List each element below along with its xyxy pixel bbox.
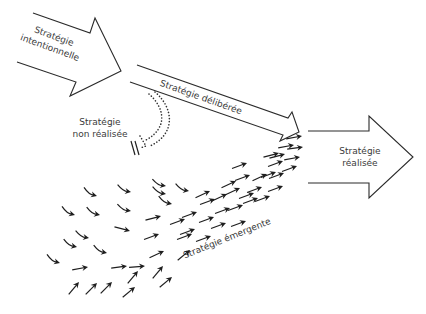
emergent-arrow-shaft: [47, 254, 57, 262]
emergent-arrow: [129, 264, 145, 270]
emergent-arrow: [239, 192, 254, 198]
emergent-arrow-shaft: [69, 284, 77, 294]
emergent-arrow: [213, 194, 228, 201]
strategy-diagram: Stratégie intentionnelle Stratégie délib…: [0, 0, 426, 314]
emergent-arrow: [211, 222, 226, 228]
emergent-arrow-shaft: [226, 189, 238, 195]
emergent-arrow-shaft: [239, 194, 251, 199]
emergent-arrow: [115, 227, 131, 233]
emergent-arrow: [111, 264, 127, 270]
emergent-arrow-shaft: [278, 146, 291, 148]
emergent-arrow: [196, 191, 211, 198]
emergent-arrow: [228, 204, 243, 210]
emergent-arrow-shaft: [269, 174, 281, 179]
emergent-arrow-shaft: [62, 206, 72, 214]
emergent-arrow-shaft: [268, 162, 280, 167]
emergent-arrow-shaft: [153, 268, 161, 278]
emergent-arrow: [284, 155, 300, 161]
emergent-arrow-shaft: [76, 231, 86, 238]
emergent-arrow-shaft: [176, 184, 186, 191]
emergent-arrow-shaft: [84, 187, 94, 195]
emergent-arrow: [159, 196, 172, 206]
emergent-arrow: [268, 185, 283, 191]
emergent-arrow: [200, 198, 215, 204]
emergent-arrow-shaft: [128, 273, 136, 283]
emergent-arrow-shaft: [177, 235, 189, 240]
emergent-arrow: [128, 271, 138, 283]
deliberate-strategy-label: Stratégie délibérée: [159, 78, 244, 116]
emergent-arrow: [117, 204, 131, 213]
emergent-arrow: [153, 187, 166, 196]
emergent-arrow: [69, 282, 79, 294]
emergent-arrow-shaft: [200, 200, 212, 205]
emergent-arrow: [182, 211, 197, 217]
emergent-arrow: [94, 245, 107, 255]
emergent-arrow: [76, 231, 89, 240]
emergent-arrow: [72, 265, 88, 271]
emergent-arrows-group: [47, 134, 303, 297]
emergent-arrow: [199, 216, 214, 222]
emergent-arrow: [84, 187, 97, 197]
emergent-arrow-shaft: [64, 239, 74, 246]
emergent-arrow-shaft: [152, 179, 163, 186]
emergent-arrow: [62, 206, 75, 216]
emergent-arrow: [253, 174, 268, 181]
double-slash-icon: [131, 141, 139, 155]
emergent-arrow: [64, 239, 77, 249]
emergent-arrow-shaft: [231, 222, 243, 227]
emergent-arrow-shaft: [213, 195, 225, 201]
emergent-arrow: [86, 283, 97, 294]
emergent-arrow-shaft: [115, 227, 128, 230]
emergent-arrow-shaft: [111, 266, 124, 268]
emergent-arrow-shaft: [87, 207, 97, 214]
emergent-arrow-shaft: [182, 213, 194, 218]
emergent-arrow-shaft: [86, 285, 95, 294]
emergent-arrow-shaft: [150, 252, 162, 257]
emergent-arrow: [243, 197, 258, 203]
emergent-arrow-shaft: [118, 185, 128, 192]
emergent-arrow: [222, 181, 237, 188]
emergent-arrow-shaft: [253, 175, 265, 181]
emergent-arrow-shaft: [117, 204, 128, 211]
emergent-arrow-shaft: [153, 187, 163, 194]
emergent-arrow: [152, 179, 166, 188]
emergent-arrow-shaft: [235, 176, 247, 181]
emergent-arrow: [177, 233, 192, 239]
emergent-arrow: [170, 218, 185, 224]
emergent-arrow-shaft: [255, 197, 267, 202]
emergent-arrow-shaft: [222, 182, 234, 188]
emergent-arrow: [247, 186, 262, 192]
emergent-arrow-shaft: [215, 209, 227, 214]
emergent-arrow-shaft: [144, 235, 156, 240]
emergent-arrow-shaft: [72, 268, 85, 270]
emergent-arrow-shaft: [94, 245, 104, 252]
emergent-arrow-shaft: [160, 279, 170, 287]
emergent-arrow-shaft: [199, 218, 211, 223]
emergent-arrow-shaft: [284, 158, 297, 160]
emergent-arrow: [282, 165, 297, 171]
emergent-arrow-shaft: [196, 192, 208, 198]
unrealized-label-line2: non réalisée: [72, 129, 128, 139]
realized-label-line2: réalisée: [342, 158, 378, 168]
emergent-arrow-shaft: [268, 187, 280, 192]
emergent-arrow-shaft: [101, 284, 110, 293]
realized-label-line1: Stratégie: [339, 146, 381, 156]
emergent-arrow-shaft: [282, 167, 294, 172]
emergent-arrow: [226, 188, 241, 195]
realized-strategy-arrow: [308, 116, 413, 198]
emergent-arrow: [87, 207, 100, 217]
emergent-arrow-shaft: [228, 206, 240, 211]
emergent-arrow: [101, 282, 112, 293]
emergent-arrow: [144, 233, 159, 239]
emergent-arrow: [268, 160, 283, 166]
emergent-arrow: [146, 215, 162, 221]
emergent-arrow-shaft: [159, 196, 169, 203]
emergent-arrow: [160, 277, 172, 287]
emergent-arrow: [176, 184, 189, 193]
emergent-arrow: [47, 254, 60, 264]
unrealized-dotted-curve-icon: [140, 92, 169, 148]
emergent-arrow-shaft: [211, 224, 223, 229]
emergent-arrow-shaft: [247, 188, 259, 193]
emergent-arrow: [123, 287, 135, 297]
emergent-arrow: [232, 162, 247, 168]
